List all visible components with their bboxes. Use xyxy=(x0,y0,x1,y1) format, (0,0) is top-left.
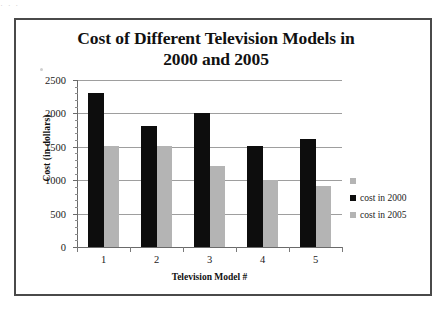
x-tick-label-4: 4 xyxy=(260,254,265,265)
x-tick-label-3: 3 xyxy=(207,254,212,265)
bar-3-cost-in-2005 xyxy=(210,166,226,247)
y-tick-1000: 1000 xyxy=(73,180,78,181)
y-minor-tick xyxy=(75,220,78,221)
chart-frame: Cost of Different Television Models in20… xyxy=(14,18,432,296)
legend-label: cost in 2000 xyxy=(360,193,406,203)
y-minor-tick xyxy=(75,160,78,161)
y-minor-tick xyxy=(75,133,78,134)
y-tick-2500: 2500 xyxy=(73,80,78,81)
x-category-tick xyxy=(289,247,290,252)
y-minor-tick xyxy=(75,187,78,188)
bar-3-cost-in-2000 xyxy=(194,113,210,247)
bar-2-cost-in-2005 xyxy=(157,146,173,247)
y-minor-tick xyxy=(75,227,78,228)
y-minor-tick xyxy=(75,234,78,235)
x-axis-title: Television Model # xyxy=(77,272,342,282)
bar-4-cost-in-2005 xyxy=(263,180,279,247)
y-minor-tick xyxy=(75,140,78,141)
chart-legend: cost in 2000cost in 2005 xyxy=(350,172,436,223)
y-tick-2000: 2000 xyxy=(73,113,78,114)
bar-group-4 xyxy=(247,80,278,247)
y-tick-label-2500: 2500 xyxy=(45,75,66,86)
legend-item-3[interactable]: cost in 2005 xyxy=(350,206,436,223)
y-tick-label-500: 500 xyxy=(50,208,66,219)
y-minor-tick xyxy=(75,93,78,94)
y-tick-500: 500 xyxy=(73,214,78,215)
y-tick-label-1500: 1500 xyxy=(45,141,66,152)
bar-group-3 xyxy=(194,80,225,247)
x-category-tick xyxy=(342,247,343,252)
x-tick-label-2: 2 xyxy=(154,254,159,265)
y-minor-tick xyxy=(75,127,78,128)
x-category-tick xyxy=(77,247,78,252)
bar-2-cost-in-2000 xyxy=(141,126,157,247)
bar-group-2 xyxy=(141,80,172,247)
y-minor-tick xyxy=(75,167,78,168)
x-tick-label-5: 5 xyxy=(313,254,318,265)
y-minor-tick xyxy=(75,194,78,195)
y-tick-label-2000: 2000 xyxy=(45,108,66,119)
y-minor-tick xyxy=(75,174,78,175)
legend-item-1[interactable] xyxy=(350,172,436,189)
y-minor-tick xyxy=(75,200,78,201)
bar-5-cost-in-2000 xyxy=(300,139,316,247)
legend-swatch-icon xyxy=(350,178,356,184)
gridline-0 xyxy=(77,247,342,248)
y-minor-tick xyxy=(75,100,78,101)
legend-label: cost in 2005 xyxy=(360,210,406,220)
y-tick-label-0: 0 xyxy=(61,242,66,253)
plot-area: Cost (in dollars) 05001000150020002500 1… xyxy=(16,20,434,298)
x-tick-label-1: 1 xyxy=(101,254,106,265)
bar-group-5 xyxy=(300,80,331,247)
y-minor-tick xyxy=(75,240,78,241)
bar-4-cost-in-2000 xyxy=(247,146,263,247)
legend-swatch-icon xyxy=(350,195,356,201)
legend-item-2[interactable]: cost in 2000 xyxy=(350,189,436,206)
x-category-tick xyxy=(236,247,237,252)
y-tick-label-1000: 1000 xyxy=(45,175,66,186)
bar-1-cost-in-2000 xyxy=(88,93,104,247)
legend-swatch-icon xyxy=(350,212,356,218)
bar-5-cost-in-2005 xyxy=(316,186,332,247)
bar-group-1 xyxy=(88,80,119,247)
y-minor-tick xyxy=(75,87,78,88)
scan-artifact-text: · · · xyxy=(0,0,448,12)
bar-1-cost-in-2005 xyxy=(104,146,120,247)
x-category-tick xyxy=(130,247,131,252)
y-tick-1500: 1500 xyxy=(73,147,78,148)
y-minor-tick xyxy=(75,107,78,108)
y-minor-tick xyxy=(75,153,78,154)
x-category-tick xyxy=(183,247,184,252)
value-axis-line xyxy=(77,80,78,248)
y-minor-tick xyxy=(75,120,78,121)
plot-canvas: 05001000150020002500 12345 xyxy=(77,80,342,247)
y-minor-tick xyxy=(75,207,78,208)
